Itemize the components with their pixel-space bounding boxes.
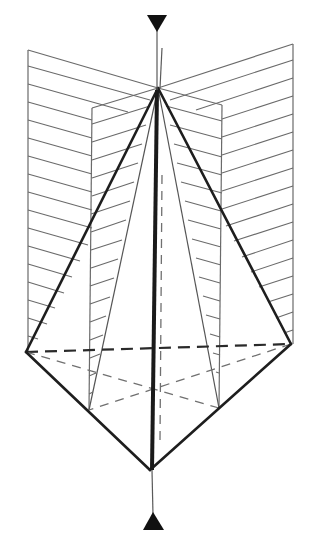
left-inner-plane	[89, 88, 158, 410]
triangle-up-icon	[143, 512, 164, 530]
diagram-canvas	[0, 0, 309, 543]
bipyramid-symmetry-diagram	[0, 0, 309, 543]
triangle-down-icon	[147, 15, 167, 32]
hidden-edges	[26, 344, 291, 410]
right-inner-plane	[158, 88, 222, 408]
